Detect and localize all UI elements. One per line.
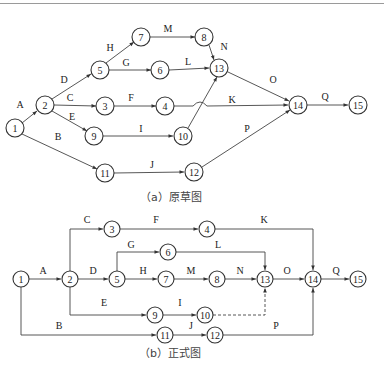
diagram-b-activity-label-K: K [260,214,268,225]
diagram-a-node-6: 6 [151,61,169,79]
diagram-a-node-11: 11 [96,164,114,182]
edge-a-L [169,68,209,70]
edge-a-10-13 [188,77,217,128]
svg-text:13: 13 [260,274,270,285]
svg-text:4: 4 [205,224,210,235]
diagram-b-node-5: 5 [109,271,125,287]
diagram-a-node-8: 8 [195,28,213,46]
svg-text:5: 5 [98,65,103,76]
svg-text:5: 5 [115,274,120,285]
diagram-b-node-13: 13 [257,271,273,287]
svg-text:7: 7 [139,32,144,43]
svg-text:4: 4 [163,101,168,112]
diagram-a-activity-label-G: G [122,57,129,68]
diagram-a-node-5: 5 [91,61,109,79]
svg-text:10: 10 [178,131,188,142]
edge-b-dummy-10-13 [213,288,265,315]
svg-text:9: 9 [92,131,97,142]
svg-text:6: 6 [166,247,171,258]
diagram-b-activity-label-H: H [139,265,146,276]
diagram-a-activity-label-D: D [60,74,67,85]
diagram-b-node-15: 15 [350,271,366,287]
diagram-a-activity-label-P: P [244,123,250,134]
diagram-b-node-7: 7 [158,271,174,287]
diagram-a-activity-label-B: B [55,131,62,142]
diagram-b-node-14: 14 [305,271,321,287]
svg-text:2: 2 [68,274,73,285]
diagram-b-activity-label-N: N [236,265,243,276]
diagram-a-node-10: 10 [174,127,192,145]
diagram-a-node-14: 14 [289,96,307,114]
diagram-a-activity-label-N: N [220,41,227,52]
diagram-a-node-13: 13 [210,59,228,77]
diagram-a-activity-label-J: J [150,159,154,170]
diagram-a-activity-label-O: O [269,74,276,85]
diagram-a-activity-label-H: H [106,42,113,53]
edge-a-A [22,111,37,123]
svg-text:6: 6 [158,65,163,76]
diagram-b-node-2: 2 [62,271,78,287]
diagram-a-node-7: 7 [132,28,150,46]
edge-a-C [54,105,96,106]
svg-text:12: 12 [210,330,220,341]
diagram-b-labels: ABCDEFGHIJKLMNOPQ [39,214,340,331]
diagram-b-activity-label-J: J [189,320,193,331]
diagram-b-activity-label-I: I [178,297,181,308]
diagram-b-activity-label-E: E [101,297,107,308]
edge-b-E [70,287,146,315]
edge-a-P [202,110,290,167]
diagram-b-node-1: 1 [13,271,29,287]
diagram-b-activity-label-M: M [187,265,196,276]
diagram-b-activity-label-D: D [89,265,96,276]
svg-text:11: 11 [160,330,170,341]
diagram-b-activity-label-Q: Q [332,265,340,276]
diagram-b-node-8: 8 [209,271,225,287]
edge-b-G [117,252,159,271]
diagram-a-labels: ABCDEFGHIJKLMNOPQ [16,23,329,170]
diagram-a-activity-label-F: F [128,92,134,103]
svg-text:10: 10 [200,310,210,321]
svg-text:9: 9 [153,310,158,321]
diagram-b-activity-label-C: C [84,214,91,225]
caption-formal: （b）正式图 [139,344,201,360]
svg-text:14: 14 [308,274,318,285]
diagram-b-activity-label-B: B [56,320,63,331]
svg-text:11: 11 [100,168,110,179]
diagram-b-node-9: 9 [147,307,163,323]
svg-text:15: 15 [353,274,363,285]
svg-text:1: 1 [19,274,24,285]
svg-text:12: 12 [189,167,199,178]
diagram-b-node-10: 10 [197,307,213,323]
edge-b-K [215,229,313,270]
diagram-a-node-4: 4 [156,97,174,115]
diagram-b-activity-label-A: A [39,265,47,276]
svg-text:14: 14 [293,100,303,111]
diagram-a-activity-label-M: M [164,23,173,34]
diagram-a-node-15: 15 [349,96,367,114]
diagram-a-activity-label-Q: Q [321,91,329,102]
diagram-a-node-1: 1 [6,119,24,137]
diagram-a-node-2: 2 [36,96,54,114]
diagram-b-node-6: 6 [160,244,176,260]
svg-text:7: 7 [164,274,169,285]
diagram-a-activity-label-K: K [228,94,236,105]
edge-b-C [70,229,103,271]
svg-text:3: 3 [110,224,115,235]
svg-text:8: 8 [215,274,220,285]
edge-b-B [21,287,156,335]
svg-text:3: 3 [103,101,108,112]
diagram-a-activity-label-E: E [69,111,75,122]
diagram-b-node-3: 3 [104,221,120,237]
edge-a-N [209,45,214,60]
svg-text:1: 1 [13,123,18,134]
diagram-b-activity-label-F: F [153,214,159,225]
edge-a-O [228,72,289,101]
diagram-a-activity-label-C: C [67,92,74,103]
svg-text:13: 13 [214,63,224,74]
edge-b-P [223,288,313,335]
diagram-a-node-3: 3 [96,97,114,115]
edge-a-J [114,172,184,173]
diagram-a-node-12: 12 [185,163,203,181]
diagram-a-node-9: 9 [85,127,103,145]
svg-text:2: 2 [43,100,48,111]
